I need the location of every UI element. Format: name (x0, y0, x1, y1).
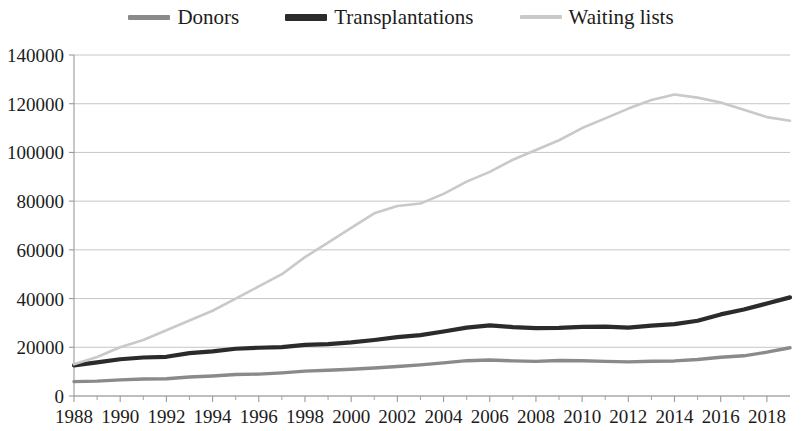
legend-item-waiting-lists: Waiting lists (520, 7, 674, 28)
x-tick-label: 1990 (101, 406, 139, 427)
x-tick-label: 1994 (194, 406, 233, 427)
legend-label-donors: Donors (177, 7, 239, 28)
chart-legend: Donors Transplantations Waiting lists (0, 0, 802, 34)
y-tick-label: 80000 (17, 191, 65, 212)
line-chart-svg: 020000400006000080000100000120000140000 … (0, 34, 802, 431)
x-tick-label: 2002 (378, 406, 416, 427)
legend-label-waiting-lists: Waiting lists (569, 7, 674, 28)
data-series (74, 94, 790, 381)
plot-area: 020000400006000080000100000120000140000 … (0, 34, 802, 431)
x-tick-label: 2008 (517, 406, 555, 427)
x-axis-ticks (74, 396, 767, 402)
axis-lines (74, 55, 790, 396)
y-axis-labels: 020000400006000080000100000120000140000 (7, 45, 64, 407)
gridlines (74, 55, 790, 396)
legend-swatch-transplantations (285, 14, 327, 21)
chart-container: Donors Transplantations Waiting lists 02… (0, 0, 802, 431)
y-tick-label: 120000 (7, 94, 64, 115)
y-tick-label: 100000 (7, 142, 64, 163)
y-tick-label: 20000 (17, 337, 65, 358)
legend-swatch-donors (128, 15, 170, 20)
x-tick-label: 2000 (332, 406, 370, 427)
x-tick-label: 2012 (609, 406, 647, 427)
legend-swatch-waiting-lists (520, 15, 562, 19)
y-tick-label: 140000 (7, 45, 64, 66)
x-tick-label: 2018 (748, 406, 786, 427)
y-axis-ticks (69, 55, 74, 396)
x-tick-label: 1996 (240, 406, 278, 427)
y-tick-label: 60000 (17, 240, 65, 261)
x-tick-label: 1998 (286, 406, 324, 427)
legend-label-transplantations: Transplantations (334, 7, 473, 28)
x-tick-label: 2010 (563, 406, 601, 427)
x-tick-label: 2014 (656, 406, 695, 427)
legend-item-transplantations: Transplantations (285, 7, 473, 28)
y-tick-label: 40000 (17, 289, 65, 310)
legend-item-donors: Donors (128, 7, 239, 28)
x-tick-label: 2006 (471, 406, 509, 427)
x-axis-labels: 1988199019921994199619982000200220042006… (55, 406, 786, 427)
x-tick-label: 1992 (147, 406, 185, 427)
x-tick-label: 2016 (702, 406, 740, 427)
y-tick-label: 0 (55, 386, 65, 407)
x-tick-label: 2004 (425, 406, 464, 427)
x-tick-label: 1988 (55, 406, 93, 427)
series-line-transplantations (74, 297, 790, 365)
